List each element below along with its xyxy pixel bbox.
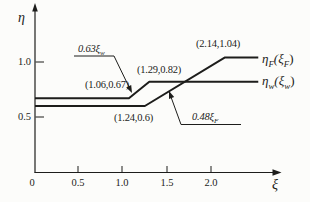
x-tick-label-0.5: 0.5: [66, 177, 90, 188]
annotation-point-w-top: (1.29,0.82): [137, 64, 181, 75]
y-axis-label: η: [18, 10, 25, 26]
slope-F-subscript: F: [214, 117, 218, 125]
slope-F-text: 0.48ξ: [192, 111, 214, 122]
x-tick-label-1.0: 1.0: [110, 177, 134, 188]
y-axis-arrowhead-icon: [32, 3, 38, 12]
curve-eta-w: [35, 82, 258, 99]
annotation-slope-w: 0.63ξw: [78, 43, 104, 54]
eta-w-arg-open: (ξ: [274, 73, 284, 88]
annotation-point-w-knee: (1.06,0.67): [85, 79, 129, 90]
y-tick-marks: [36, 62, 45, 117]
x-axis-arrowhead-icon: [273, 169, 282, 175]
slope-w-text: 0.63ξ: [78, 43, 100, 54]
curve-label-eta-F: ηF(ξF): [262, 51, 294, 67]
slope-F-leader-line: [171, 97, 181, 125]
curve-label-eta-w: ηw(ξw): [262, 73, 294, 89]
y-tick-label-1.0: 1.0: [10, 56, 31, 67]
x-tick-label-0: 0: [24, 177, 40, 188]
annotation-point-F-knee: (1.24,0.6): [114, 112, 153, 123]
annotation-point-F-top: (2.14,1.04): [196, 38, 240, 49]
eta-F-arg-open: (ξ: [274, 51, 284, 66]
x-tick-marks: [78, 166, 211, 173]
x-tick-label-2.0: 2.0: [199, 177, 223, 188]
y-tick-label-0.5: 0.5: [10, 111, 31, 122]
figure-line-chart: η ξ 1.0 0.5 0 0.5 1.0 1.5 2.0 (1.06,0.67…: [0, 0, 310, 202]
slope-w-subscript: w: [100, 49, 105, 57]
x-tick-label-1.5: 1.5: [155, 177, 179, 188]
plot-canvas: [0, 0, 310, 202]
annotation-slope-F: 0.48ξF: [192, 111, 218, 122]
x-axis-label: ξ: [272, 177, 278, 193]
eta-w-arg-close: ): [290, 73, 294, 88]
eta-F-arg-close: ): [289, 51, 293, 66]
slope-F-arrowhead-icon: [169, 91, 174, 99]
